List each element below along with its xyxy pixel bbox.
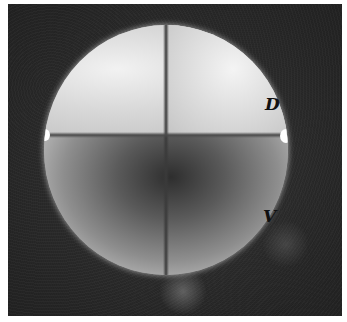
bottom-shadow (158, 269, 208, 314)
horizontal-cleavage-furrow (44, 132, 288, 138)
right-furrow-notch (280, 129, 288, 143)
upper-right-blastomere (166, 25, 288, 135)
embryo (44, 25, 288, 275)
dorsal-label: D (265, 96, 280, 113)
ventral-label: V (263, 208, 276, 225)
vertical-cleavage-furrow (163, 25, 169, 275)
